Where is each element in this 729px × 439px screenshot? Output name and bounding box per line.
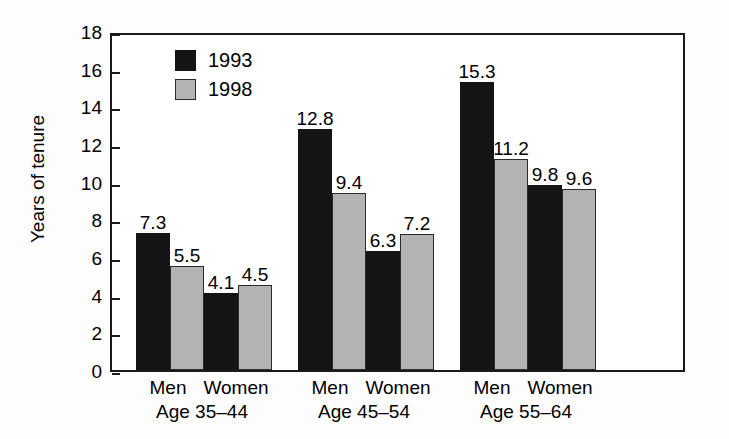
bar-1993-men-2 [298, 129, 332, 370]
y-axis-tick-label: 2 [56, 324, 102, 343]
y-axis-tick-label: 4 [56, 287, 102, 306]
bar-1998-women-5 [562, 189, 596, 370]
y-axis-tick [112, 222, 120, 224]
bar-1998-women-3 [400, 234, 434, 370]
y-axis-title: Years of tenure [27, 79, 49, 279]
bar-1998-men-4 [494, 159, 528, 370]
x-axis-group-label: Age 55–64 [436, 402, 616, 422]
legend-swatch-icon-1998 [175, 79, 196, 100]
y-axis-tick [112, 72, 120, 74]
bar-1993-men-4 [460, 82, 494, 370]
y-axis-tick-label: 0 [56, 362, 102, 381]
bar-value-label: 5.5 [162, 246, 212, 265]
bar-value-label: 9.6 [554, 169, 604, 188]
y-axis-tick-label: 12 [56, 136, 102, 155]
y-axis-tick-label: 14 [56, 98, 102, 117]
y-axis-tick [112, 109, 120, 111]
y-axis-tick-label: 8 [56, 211, 102, 230]
y-axis-tick-label: 18 [56, 23, 102, 42]
y-axis-tick [112, 260, 120, 262]
y-axis-tick [112, 335, 120, 337]
bar-chart: Years of tenure 181614121086420 7.35.54.… [0, 0, 729, 439]
bar-1993-women-5 [528, 185, 562, 370]
legend: 1993 1998 [175, 47, 253, 105]
legend-item-1993: 1993 [175, 47, 253, 73]
y-axis-tick [112, 298, 120, 300]
x-axis-group-label: Age 45–54 [274, 402, 454, 422]
y-axis-tick [112, 185, 120, 187]
bar-value-label: 9.4 [324, 173, 374, 192]
bar-1998-men-2 [332, 193, 366, 370]
y-axis-tick [112, 34, 120, 36]
y-axis-tick-label: 10 [56, 174, 102, 193]
y-axis-tick [112, 373, 120, 375]
bar-value-label: 15.3 [452, 62, 502, 81]
bar-value-label: 11.2 [486, 139, 536, 158]
bar-1993-women-1 [204, 293, 238, 370]
bar-value-label: 7.2 [392, 214, 442, 233]
bar-value-label: 6.3 [358, 231, 408, 250]
bar-value-label: 12.8 [290, 109, 340, 128]
bar-1998-women-1 [238, 285, 272, 370]
y-axis-tick [112, 147, 120, 149]
legend-swatch-icon-1993 [175, 50, 196, 71]
legend-item-1998: 1998 [175, 76, 253, 102]
legend-label-1998: 1998 [208, 79, 253, 99]
bar-value-label: 4.5 [230, 265, 280, 284]
bar-value-label: 7.3 [128, 213, 178, 232]
legend-label-1993: 1993 [208, 50, 253, 70]
y-axis-tick-label: 16 [56, 61, 102, 80]
x-axis-group-label: Age 35–44 [112, 402, 292, 422]
x-axis-category-label: Women [500, 378, 620, 398]
y-axis-tick-label: 6 [56, 249, 102, 268]
bar-1993-women-3 [366, 251, 400, 370]
